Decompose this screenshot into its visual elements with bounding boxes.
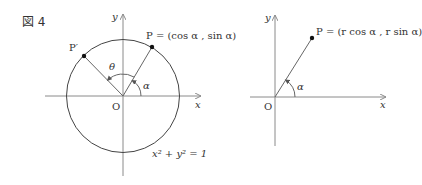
right-x-label: x xyxy=(380,99,386,110)
circle-equation-label: x² + y² = 1 xyxy=(152,148,207,159)
left-alpha-label: α xyxy=(143,80,150,91)
point-p-dot xyxy=(150,45,154,49)
theta-arc xyxy=(108,74,135,80)
diagram-canvas: y x O P = (cos α , sin α) P′ θ α x² + y²… xyxy=(0,0,422,185)
theta-label: θ xyxy=(109,61,115,72)
alpha-arc xyxy=(132,81,141,97)
point-p-label: P = (cos α , sin α) xyxy=(146,30,236,41)
right-diagram: y x O P = (r cos α , r sin α) α xyxy=(250,12,422,146)
segment-op-prime xyxy=(84,56,123,96)
left-diagram: y x O P = (cos α , sin α) P′ θ α x² + y²… xyxy=(45,11,236,176)
left-x-label: x xyxy=(195,99,201,110)
point-p-prime-label: P′ xyxy=(69,42,79,53)
right-y-label: y xyxy=(264,12,271,23)
point-p-dot xyxy=(310,36,314,40)
left-y-label: y xyxy=(111,11,118,22)
right-point-p-label: P = (r cos α , r sin α) xyxy=(316,26,422,37)
alpha-arc xyxy=(286,80,295,97)
left-origin-label: O xyxy=(112,101,120,112)
right-alpha-label: α xyxy=(297,81,304,92)
right-origin-label: O xyxy=(264,101,272,112)
point-p-prime-dot xyxy=(82,54,86,58)
